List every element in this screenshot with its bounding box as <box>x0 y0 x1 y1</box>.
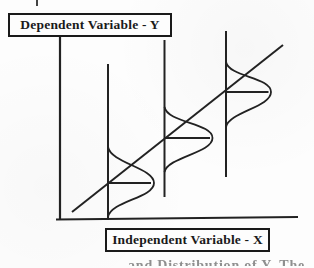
normal-curve-2 <box>165 107 213 172</box>
x-axis-label: Independent Variable - X <box>112 232 263 248</box>
figure: Dependent Variable - Y Independent Varia… <box>0 0 314 268</box>
x-axis-line <box>56 217 298 220</box>
x-axis-label-box: Independent Variable - X <box>105 228 270 252</box>
y-axis-label-box: Dependent Variable - Y <box>8 13 172 37</box>
y-axis-label: Dependent Variable - Y <box>20 17 159 33</box>
normal-curve-1 <box>108 147 154 217</box>
cropped-caption-text: and Distribution of Y. The <box>128 258 312 266</box>
regression-line <box>72 45 283 212</box>
